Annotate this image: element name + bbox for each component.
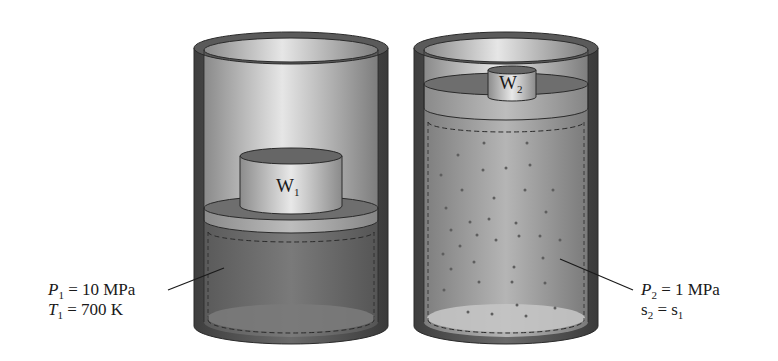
state-1-pressure: P1 = 10 MPa: [48, 279, 135, 300]
weight-1-label: W1: [276, 175, 299, 196]
diagram-canvas: W1 W2 P1 = 10 MPa T1 = 700 K P2 = 1 MPa …: [0, 0, 778, 361]
state-1-temperature: T1 = 700 K: [48, 299, 123, 320]
weight-2-label: W2: [499, 72, 522, 93]
state-2-pressure: P2 = 1 MPa: [641, 279, 720, 300]
state-2-entropy: s2 = s1: [641, 299, 683, 320]
